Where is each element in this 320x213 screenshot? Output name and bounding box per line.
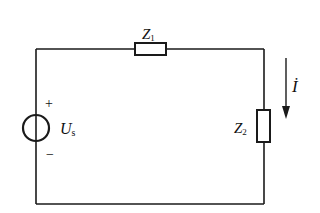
z2-box bbox=[257, 110, 270, 142]
z1-label: Z1 bbox=[142, 26, 155, 43]
minus-sign: − bbox=[46, 147, 54, 162]
arrow-down-icon bbox=[282, 106, 290, 119]
current-indicator: İ bbox=[282, 58, 299, 119]
impedance-z2: Z2 bbox=[234, 110, 270, 142]
z1-box bbox=[135, 43, 166, 55]
plus-sign: + bbox=[45, 96, 53, 111]
current-label: İ bbox=[291, 77, 299, 96]
source-label: Us bbox=[60, 120, 76, 138]
circuit-diagram: Z1 Z2 + − Us İ bbox=[0, 0, 320, 213]
voltage-source: + − Us bbox=[23, 96, 76, 162]
impedance-z1: Z1 bbox=[135, 26, 166, 55]
z2-label: Z2 bbox=[234, 120, 247, 137]
